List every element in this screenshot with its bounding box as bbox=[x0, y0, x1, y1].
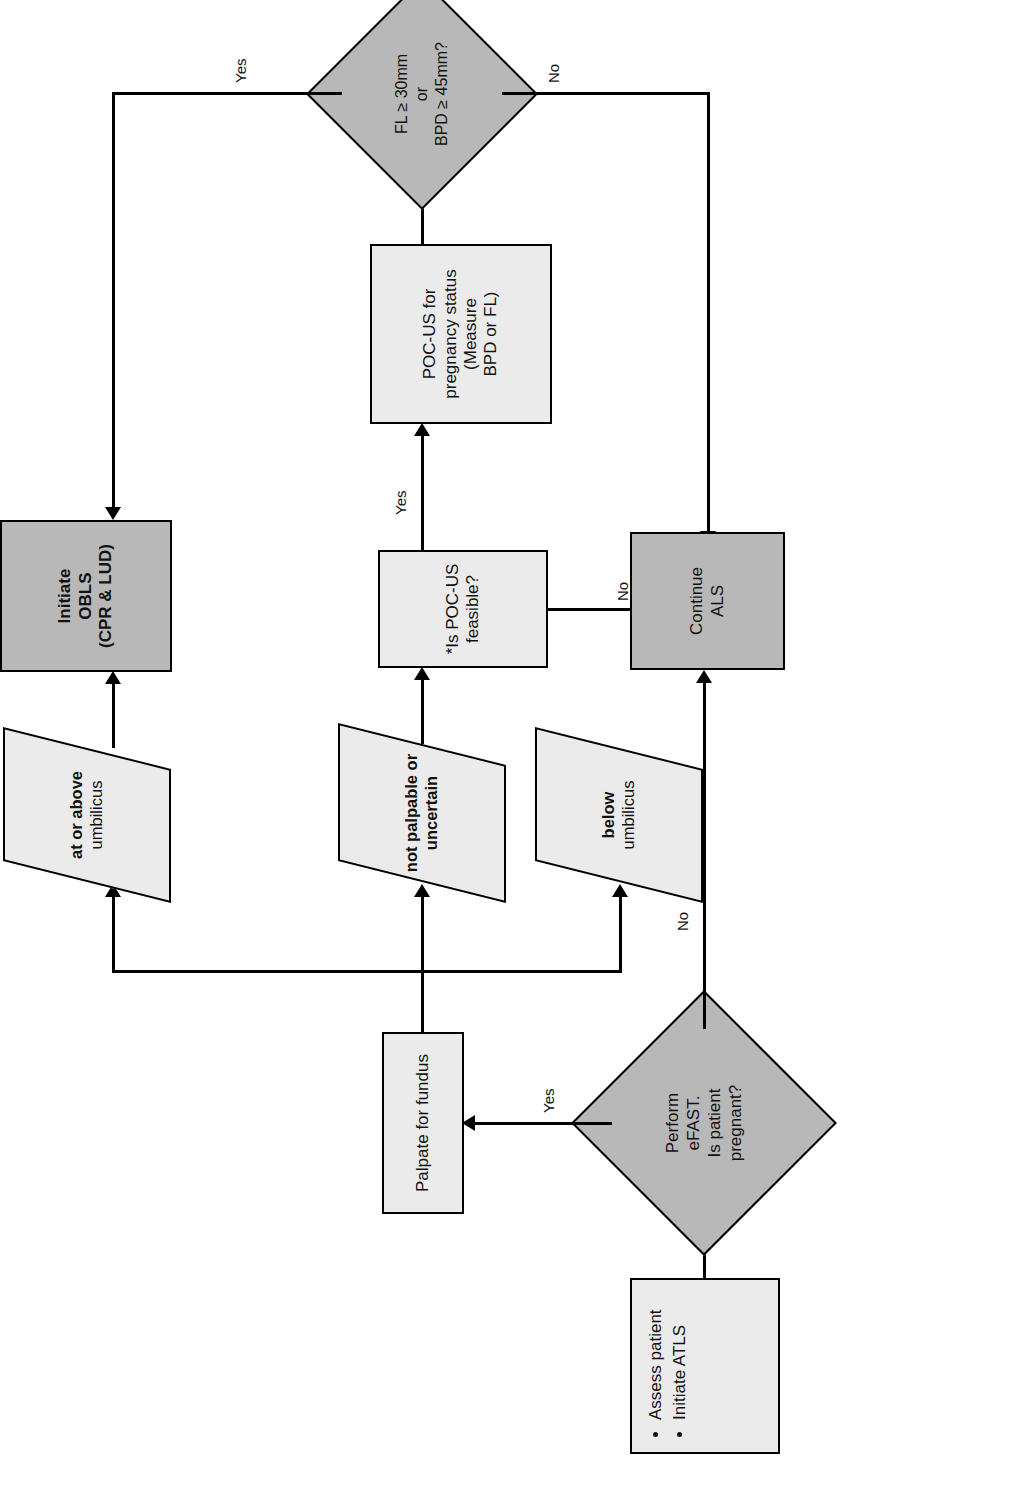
node-measure-decision[interactable]: FL ≥ 30mm or BPD ≥ 45mm? bbox=[340, 12, 504, 176]
measure-line-3: BPD ≥ 45mm? bbox=[432, 42, 452, 146]
not-palpable-line-1: not palpable or bbox=[402, 754, 422, 872]
node-not-palpable-uncertain[interactable]: not palpable or uncertain bbox=[338, 744, 506, 882]
edge-label-efast-yes: Yes bbox=[540, 1086, 557, 1116]
edge-pocus-yes bbox=[421, 434, 424, 550]
edge-not-palpable-to-pocus bbox=[421, 678, 424, 744]
node-at-or-above-umbilicus[interactable]: at or above umbilicus bbox=[3, 748, 171, 882]
node-pocus-feasible[interactable]: *Is POC-US feasible? bbox=[378, 550, 548, 668]
node-efast-decision[interactable]: Perform eFAST. Is patient pregnant? bbox=[610, 1029, 798, 1217]
pocus-feasible-line-1: *Is POC-US bbox=[443, 564, 463, 655]
edge-measure-yes-horizontal bbox=[112, 92, 115, 508]
node-below-umbilicus[interactable]: below umbilicus bbox=[535, 748, 703, 882]
obls-line-2: OBLS bbox=[76, 544, 96, 648]
edge-measure-no-vertical bbox=[502, 92, 710, 95]
arrowhead-pocus-feasible bbox=[414, 667, 430, 680]
arrowhead-efast-no bbox=[696, 670, 712, 683]
node-continue-als[interactable]: Continue ALS bbox=[630, 532, 785, 670]
edge-split-bus bbox=[112, 970, 622, 973]
edge-measure-yes-vertical bbox=[112, 92, 342, 95]
pocus-status-line-3: (Measure bbox=[461, 269, 481, 398]
arrowhead-measure-yes bbox=[105, 507, 121, 520]
edge-label-efast-no: No bbox=[674, 909, 691, 934]
efast-line-1: Perform bbox=[662, 1085, 683, 1162]
arrowhead-below bbox=[612, 884, 628, 897]
edge-to-not-palpable bbox=[421, 895, 424, 973]
assess-item: Initiate ATLS bbox=[670, 1292, 690, 1420]
node-assess-patient[interactable]: Assess patient Initiate ATLS bbox=[630, 1278, 780, 1454]
edge-label-measure-no: No bbox=[545, 61, 562, 86]
pocus-feasible-line-2: feasible? bbox=[463, 564, 483, 655]
edge-measure-no-horizontal bbox=[707, 92, 710, 532]
edge-palpate-out bbox=[421, 970, 424, 1032]
obls-line-3: (CPR & LUD) bbox=[96, 544, 116, 648]
pocus-status-line-4: BPD or FL) bbox=[481, 269, 501, 398]
node-palpate-fundus[interactable]: Palpate for fundus bbox=[382, 1032, 464, 1214]
arrowhead-obls bbox=[105, 671, 121, 684]
edge-at-or-above-to-obls bbox=[112, 682, 115, 748]
below-line-1: below bbox=[599, 781, 619, 850]
arrowhead-pocus-status bbox=[414, 423, 430, 436]
edge-label-pocus-no: No bbox=[614, 579, 631, 604]
palpate-label: Palpate for fundus bbox=[413, 1054, 433, 1192]
edge-to-below bbox=[619, 895, 622, 973]
obls-line-1: Initiate bbox=[55, 544, 75, 648]
efast-line-3: Is patient bbox=[704, 1085, 725, 1162]
pocus-status-line-2: pregnancy status bbox=[441, 269, 461, 398]
pocus-status-line-1: POC-US for bbox=[420, 269, 440, 398]
efast-line-2: eFAST. bbox=[683, 1085, 704, 1162]
edge-to-at-or-above bbox=[112, 895, 115, 973]
at-or-above-line-1: at or above bbox=[67, 771, 87, 859]
edge-efast-yes bbox=[470, 1122, 612, 1125]
measure-line-2: or bbox=[412, 42, 432, 146]
edge-efast-no bbox=[703, 681, 706, 1029]
at-or-above-line-2: umbilicus bbox=[87, 771, 107, 859]
below-line-2: umbilicus bbox=[619, 781, 639, 850]
continue-als-line-1: Continue bbox=[687, 567, 707, 635]
node-pocus-pregnancy-status[interactable]: POC-US for pregnancy status (Measure BPD… bbox=[370, 244, 552, 424]
assess-item: Assess patient bbox=[646, 1292, 666, 1420]
not-palpable-line-2: uncertain bbox=[422, 754, 442, 872]
efast-line-4: pregnant? bbox=[725, 1085, 746, 1162]
edge-label-pocus-yes: Yes bbox=[392, 488, 409, 518]
continue-als-line-2: ALS bbox=[708, 567, 728, 635]
node-initiate-obls[interactable]: Initiate OBLS (CPR & LUD) bbox=[0, 520, 172, 672]
measure-line-1: FL ≥ 30mm bbox=[392, 42, 412, 146]
arrowhead-not-palpable bbox=[414, 884, 430, 897]
rotated-page-canvas: Assess patient Initiate ATLS Perform eFA… bbox=[0, 0, 1015, 1490]
edge-label-measure-yes: Yes bbox=[232, 56, 249, 86]
